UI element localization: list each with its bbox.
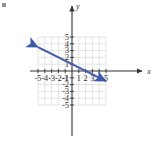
coordinate-plane: -5 -4 -3 -2 -1 1 2 3 4 5 5 4 3 2 1 -1 -2…: [0, 0, 161, 143]
x-tick-label: -4: [41, 74, 48, 83]
graph-figure: -5 -4 -3 -2 -1 1 2 3 4 5 5 4 3 2 1 -1 -2…: [0, 0, 161, 143]
x-tick-label: -5: [35, 74, 42, 83]
x-axis-tick-labels: -5 -4 -3 -2 -1 1 2 3 4 5: [35, 74, 108, 83]
y-tick-label: -5: [62, 101, 69, 110]
x-tick-label: 1: [77, 74, 81, 83]
x-tick-label: -2: [55, 74, 62, 83]
x-tick-label: 2: [84, 74, 88, 83]
x-tick-label: 5: [104, 74, 108, 83]
x-tick-label: -3: [48, 74, 55, 83]
x-axis-label: x: [146, 67, 151, 76]
y-axis-label: y: [75, 2, 80, 11]
